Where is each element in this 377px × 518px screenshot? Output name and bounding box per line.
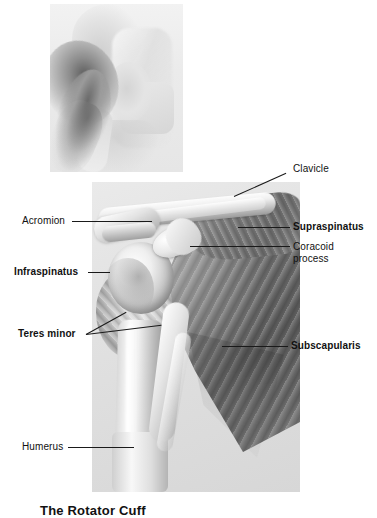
main-illustration-panel	[92, 182, 300, 492]
humeral-head-shadow	[102, 258, 154, 320]
label-coracoid-process-line2: process	[293, 253, 329, 265]
leader-line-coracoid-process	[190, 246, 290, 247]
inset-sketch-panel	[50, 4, 183, 172]
leader-line-acromion	[72, 221, 152, 222]
label-infraspinatus: Infraspinatus	[14, 266, 78, 278]
leader-line-infraspinatus	[88, 272, 110, 273]
label-teres-minor: Teres minor	[18, 328, 76, 340]
leader-line-supraspinatus	[238, 227, 290, 228]
leader-line-humerus	[68, 447, 134, 448]
label-subscapularis: Subscapularis	[291, 340, 361, 352]
label-clavicle: Clavicle	[293, 163, 329, 175]
label-supraspinatus: Supraspinatus	[293, 221, 364, 233]
label-humerus: Humerus	[22, 441, 63, 453]
label-acromion: Acromion	[22, 215, 65, 227]
leader-line-subscapularis	[222, 346, 288, 347]
label-coracoid-process-line1: Coracoid	[293, 241, 334, 253]
figure-caption: The Rotator Cuff	[40, 503, 146, 518]
